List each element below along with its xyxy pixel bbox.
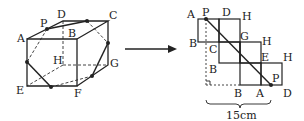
label-G: G — [110, 57, 119, 70]
net-label-B-left: B — [189, 37, 197, 50]
dimension-brace — [206, 100, 271, 108]
net-label-E: E — [261, 51, 269, 64]
net-label-C: C — [209, 43, 217, 56]
net-label-D-top: D — [222, 6, 231, 19]
net-label-P-top: P — [202, 6, 210, 19]
net-label-B-mid: B — [209, 63, 217, 76]
net-label-D-bottom: D — [283, 87, 292, 100]
net-label-A-bottom: A — [255, 87, 265, 100]
label-F: F — [74, 87, 82, 100]
label-D: D — [57, 8, 66, 21]
label-H: H — [53, 54, 63, 67]
net-label-H-1: H — [242, 10, 252, 23]
net-label-G: G — [240, 30, 249, 43]
net-label-A-top: A — [186, 8, 196, 21]
label-E: E — [16, 84, 24, 97]
dimension-label: 15cm — [226, 109, 257, 121]
label-B: B — [68, 27, 76, 40]
label-A: A — [16, 32, 26, 45]
label-C: C — [109, 9, 117, 22]
arrow-icon — [125, 45, 177, 53]
label-P: P — [40, 17, 48, 30]
net-label-P-bottom: P — [272, 72, 280, 85]
net-label-H-3: H — [283, 51, 293, 64]
diagram: A P D B C H G E F — [0, 0, 304, 121]
net-label-B-bottom: B — [234, 87, 242, 100]
net-label-H-2: H — [262, 35, 272, 48]
